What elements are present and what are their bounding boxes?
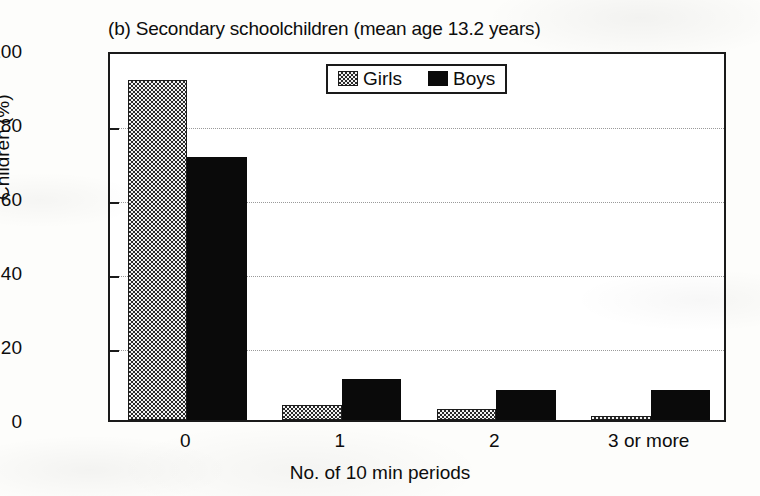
y-axis-title: Children (%) [0, 94, 14, 200]
legend-label-girls: Girls [363, 69, 402, 88]
y-tick-mark-20 [110, 350, 119, 352]
x-tick-label-1: 1 [334, 430, 345, 452]
boys-swatch-icon [428, 71, 448, 86]
x-tick-label-3: 3 or more [608, 430, 689, 452]
chart-legend: Girls Boys [326, 64, 507, 94]
y-tick-label-0: 0 [0, 411, 22, 433]
plot-inner [110, 54, 724, 420]
bar-chart-figure: (b) Secondary schoolchildren (mean age 1… [0, 0, 760, 496]
legend-entry-girls: Girls [338, 69, 402, 88]
legend-entry-boys: Boys [428, 69, 495, 88]
legend-label-boys: Boys [453, 69, 495, 88]
bar-boys-cat-1 [342, 379, 401, 420]
bar-boys-cat-2 [496, 390, 555, 420]
chart-title: (b) Secondary schoolchildren (mean age 1… [108, 18, 541, 40]
y-tick-mark-60 [110, 202, 119, 204]
bar-boys-cat-0 [187, 157, 246, 420]
y-tick-label-40: 40 [0, 263, 22, 285]
y-tick-mark-40 [110, 276, 119, 278]
plot-area [108, 52, 726, 422]
y-tick-label-100: 100 [0, 41, 22, 63]
x-tick-label-0: 0 [180, 430, 191, 452]
bar-girls-cat-3 [591, 416, 650, 420]
x-tick-label-2: 2 [489, 430, 500, 452]
x-axis-title: No. of 10 min periods [0, 462, 760, 484]
bar-girls-cat-0 [128, 80, 187, 420]
bar-boys-cat-3 [651, 390, 710, 420]
bar-girls-cat-2 [437, 409, 496, 420]
bar-girls-cat-1 [282, 405, 341, 420]
y-tick-label-80: 80 [0, 115, 22, 137]
y-tick-label-20: 20 [0, 337, 22, 359]
y-tick-mark-80 [110, 128, 119, 130]
gridline-80 [110, 128, 724, 129]
y-tick-label-60: 60 [0, 189, 22, 211]
girls-swatch-icon [338, 71, 358, 86]
